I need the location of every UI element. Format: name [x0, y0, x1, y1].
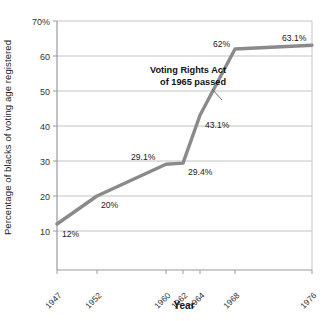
y-tick-label-40: 40: [40, 122, 50, 132]
data-point-labels: 12% 20% 29.1% 29.4% 43.1% 62% 63.1%: [62, 33, 307, 239]
annotation-line-2: of 1965 passed: [160, 77, 226, 87]
point-label-1968: 62%: [213, 39, 231, 49]
chart-figure: Percentage of blacks of voting age regis…: [0, 0, 326, 321]
grid-lines: [57, 21, 312, 231]
x-axis-title: Year: [55, 300, 313, 311]
y-tick-label-50: 50: [40, 87, 50, 97]
point-label-1947: 12%: [62, 229, 80, 239]
y-tick-labels: 70% 60 50 40 30 20 10: [32, 17, 50, 237]
axis-lines: [57, 21, 312, 270]
point-label-1952: 20%: [101, 200, 119, 210]
point-label-1976: 63.1%: [282, 33, 307, 43]
y-tick-label-10: 10: [40, 227, 50, 237]
y-tick-label-70: 70%: [32, 17, 50, 27]
annotation-line-1: Voting Rights Act: [150, 65, 226, 75]
y-tick-label-20: 20: [40, 192, 50, 202]
point-label-1960: 29.1%: [131, 152, 156, 162]
plot-area: 70% 60 50 40 30 20 10 1947 1952 1960 196…: [0, 0, 326, 321]
voting-rights-act-annotation: Voting Rights Act of 1965 passed: [150, 65, 226, 100]
y-tick-label-30: 30: [40, 157, 50, 167]
point-label-1962: 29.4%: [188, 167, 213, 177]
point-label-1964: 43.1%: [205, 120, 230, 130]
y-tick-label-60: 60: [40, 52, 50, 62]
